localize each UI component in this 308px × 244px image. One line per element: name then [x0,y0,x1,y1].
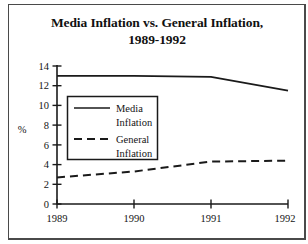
plot-area: 14 12 10 8 6 4 2 0 % 1989 1990 1991 1992 [0,0,308,244]
x-tick-label-1991: 1991 [201,213,222,224]
y-tick-label-8: 8 [44,120,49,131]
series-line-media-inflation [57,76,288,91]
y-tick-label-2: 2 [44,179,49,190]
y-tick-labels: 14 12 10 8 6 4 2 0 [39,61,50,210]
y-tick-label-10: 10 [39,100,50,111]
x-tick-label-1989: 1989 [47,213,68,224]
x-tick-label-1992: 1992 [275,213,296,224]
y-axis-label: % [18,124,27,135]
legend-label-general-inflation-line-1: General [116,134,149,145]
y-tick-label-14: 14 [39,61,50,72]
x-tick-label-1990: 1990 [124,213,145,224]
y-tick-label-0: 0 [44,199,49,210]
chart-figure: Media Inflation vs. General Inflation, 1… [0,0,308,244]
series-line-general-inflation [57,161,288,178]
legend-label-media-inflation-line-1: Media [116,103,143,114]
y-tick-label-4: 4 [44,159,50,170]
legend-label-general-inflation-line-2: Inflation [116,148,153,159]
x-tick-labels: 1989 1990 1991 1992 [47,213,296,224]
legend: Media Inflation General Inflation [68,97,158,160]
y-tick-label-6: 6 [44,140,49,151]
y-tick-label-12: 12 [39,80,50,91]
legend-label-media-inflation-line-2: Inflation [116,117,153,128]
